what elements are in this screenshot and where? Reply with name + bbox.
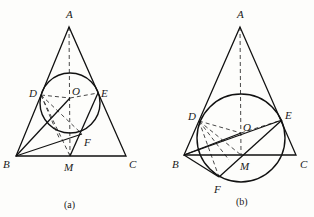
segment-DM-b — [199, 121, 241, 155]
segment-DF-a — [41, 95, 82, 134]
label-C-a: C — [129, 158, 137, 170]
label-E-a: E — [100, 87, 108, 99]
label-M-b: M — [239, 160, 250, 172]
triangle-ABC-b — [184, 27, 296, 155]
figure-b: A D O E F B M C (b) — [172, 8, 308, 208]
label-F-a: F — [83, 136, 91, 148]
circle-a — [40, 73, 100, 133]
label-B-a: B — [3, 158, 10, 170]
segment-DO-b — [199, 121, 241, 133]
caption-b: (b) — [236, 196, 248, 208]
label-O-a: O — [72, 85, 80, 97]
figure-a: A D O E F B M C (a) — [3, 8, 137, 211]
label-D-b: D — [187, 110, 196, 122]
label-A-b: A — [236, 8, 244, 20]
caption-a: (a) — [64, 199, 75, 211]
segment-AM-a — [69, 27, 70, 156]
segment-AM-b — [240, 27, 241, 155]
label-B-b: B — [172, 158, 179, 170]
label-A-a: A — [65, 8, 73, 20]
label-C-b: C — [300, 158, 308, 170]
label-E-b: E — [284, 109, 292, 121]
diagram-canvas: A D O E F B M C (a) — [0, 0, 314, 217]
segment-DO-a — [41, 95, 70, 98]
label-D-a: D — [28, 87, 37, 99]
geometry-figure-pair: A D O E F B M C (a) — [0, 0, 314, 217]
label-F-b: F — [213, 183, 221, 195]
label-M-a: M — [63, 161, 74, 173]
label-O-b: O — [243, 121, 251, 133]
